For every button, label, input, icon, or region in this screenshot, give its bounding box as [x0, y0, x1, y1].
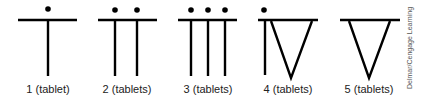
- dot-icon: [134, 7, 140, 13]
- symbol-5-label: 5 (tablets): [345, 83, 394, 95]
- symbol-4: [258, 7, 318, 78]
- symbol-3: [178, 7, 237, 76]
- triangle-v: [271, 21, 312, 78]
- dot-icon: [222, 7, 228, 13]
- symbol-2: [98, 7, 157, 76]
- image-credit: Delmar/Cengage Learning: [406, 7, 413, 89]
- symbol-4-label: 4 (tablets): [264, 83, 313, 95]
- dot-icon: [261, 7, 267, 13]
- symbol-1: [18, 6, 77, 76]
- symbol-2-label: 2 (tablets): [103, 83, 152, 95]
- triangle-v: [349, 21, 390, 78]
- dot-icon: [188, 7, 194, 13]
- symbol-3-label: 3 (tablets): [184, 83, 233, 95]
- dot-icon: [205, 7, 211, 13]
- symbol-5: [340, 20, 400, 78]
- symbol-1-label: 1 (tablet): [26, 83, 69, 95]
- dot-icon: [45, 6, 51, 12]
- dot-icon: [112, 7, 118, 13]
